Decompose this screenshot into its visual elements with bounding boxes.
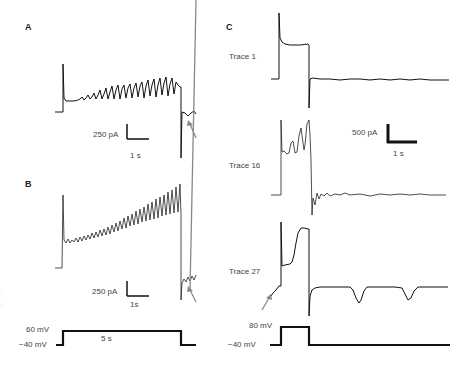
panel-b-current-trace (55, 184, 196, 300)
panel-b-command-voltage (56, 331, 196, 345)
trace-1-label: Trace 1 (229, 53, 256, 61)
panel-c-command-high-label: 80 mV (249, 322, 272, 330)
panel-c-arrow-icon (262, 294, 272, 310)
panel-a-scale-bar (127, 124, 149, 139)
panel-c-current-scale-label: 500 pA (352, 129, 377, 137)
trace-27-label: Trace 27 (229, 268, 260, 276)
panel-b-current-scale-label: 250 pA (92, 288, 117, 296)
panel-a-time-scale-label: 1 s (130, 152, 141, 160)
panel-b-time-scale-label: 1s (130, 301, 138, 309)
panel-b-command-duration-label: 5 s (101, 335, 112, 343)
figure: A B C :·: (0, 0, 465, 366)
panel-b-arrow-icon (187, 0, 196, 302)
panel-a-arrow-icon (187, 120, 196, 138)
panel-a-current-trace (55, 64, 196, 158)
trace-1-current (271, 13, 449, 108)
trace-16-label: Trace 16 (229, 162, 260, 170)
panel-b-command-high-label: 60 mV (26, 326, 49, 334)
panel-c-scale-bar (387, 124, 417, 143)
panel-b-scale-bar (127, 281, 149, 296)
panel-c-command-voltage (270, 327, 450, 345)
panel-a-current-scale-label: 250 pA (93, 131, 118, 139)
panel-c-command-low-label: −40 mV (228, 341, 256, 349)
panel-c-time-scale-label: 1 s (393, 150, 404, 158)
trace-27-current (271, 222, 448, 316)
panel-b-command-low-label: −40 mV (19, 341, 47, 349)
